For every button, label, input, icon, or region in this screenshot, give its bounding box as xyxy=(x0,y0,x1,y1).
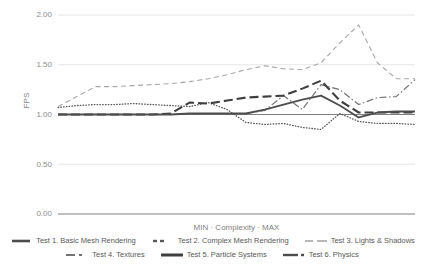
gridlines xyxy=(58,15,415,164)
legend-item-t5[interactable]: Test 5. Particle Systems xyxy=(161,251,267,259)
legend-item-t2[interactable]: Test 2. Complex Mesh Rendering xyxy=(152,237,289,245)
legend-swatch-t6-icon xyxy=(283,251,305,259)
series-line-5 xyxy=(58,81,415,115)
legend-row-1: Test 1. Basic Mesh RenderingTest 2. Comp… xyxy=(0,234,425,248)
x-axis-title: MIN · Complexity · MAX xyxy=(58,223,415,232)
legend-item-t3[interactable]: Test 3. Lights & Shadows xyxy=(305,237,415,245)
y-tick-label: 1.00 xyxy=(14,111,52,119)
series-line-4 xyxy=(58,80,415,115)
legend-item-t6[interactable]: Test 6. Physics xyxy=(283,251,359,259)
legend-swatch-t2-icon xyxy=(152,237,174,245)
legend-label-t4: Test 4. Textures xyxy=(92,251,144,259)
plot-area xyxy=(58,8,415,220)
series-lines xyxy=(58,25,415,129)
fps-line-chart: FPS 2.00 1.50 1.00 0.50 0.00 MIN · Compl… xyxy=(0,0,425,279)
y-tick-label: 0.00 xyxy=(14,210,52,218)
legend-swatch-t1-icon xyxy=(10,237,32,245)
series-line-3 xyxy=(58,25,415,107)
legend-swatch-t5-icon xyxy=(161,251,183,259)
legend-label-t2: Test 2. Complex Mesh Rendering xyxy=(178,237,289,245)
legend-row-2: Test 4. TexturesTest 5. Particle Systems… xyxy=(0,248,425,262)
legend-label-t3: Test 3. Lights & Shadows xyxy=(331,237,415,245)
legend-item-t1[interactable]: Test 1. Basic Mesh Rendering xyxy=(10,237,136,245)
y-tick-label: 1.50 xyxy=(14,61,52,69)
plot-svg xyxy=(58,8,415,220)
y-tick-label: 2.00 xyxy=(14,11,52,19)
legend-swatch-t4-icon xyxy=(66,251,88,259)
chart-legend: Test 1. Basic Mesh RenderingTest 2. Comp… xyxy=(0,234,425,262)
legend-swatch-t3-icon xyxy=(305,237,327,245)
legend-label-t1: Test 1. Basic Mesh Rendering xyxy=(36,237,136,245)
legend-label-t6: Test 6. Physics xyxy=(309,251,359,259)
legend-item-t4[interactable]: Test 4. Textures xyxy=(66,251,144,259)
y-tick-label: 0.50 xyxy=(14,161,52,169)
legend-label-t5: Test 5. Particle Systems xyxy=(187,251,267,259)
